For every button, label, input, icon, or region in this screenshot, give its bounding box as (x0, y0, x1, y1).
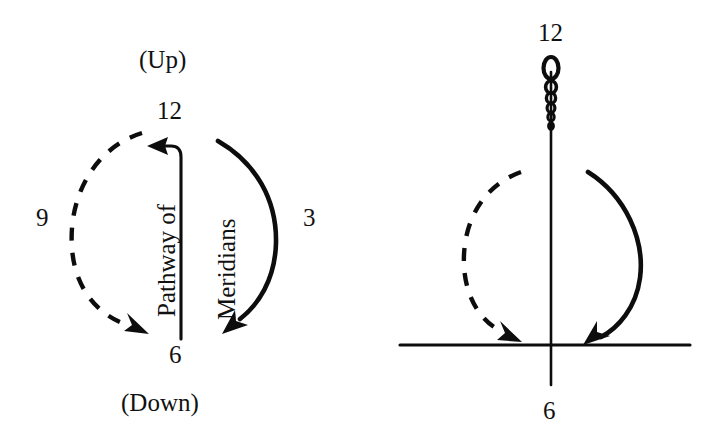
right-dashed-arrowhead-icon (497, 321, 522, 342)
right-dashed-arc (464, 172, 521, 331)
left-solid-arc (218, 141, 276, 319)
left-hook-arrowhead-icon (147, 137, 168, 155)
left-center-vertical-line (162, 146, 181, 339)
right-hour-12-label: 12 (538, 20, 563, 45)
left-dashed-arrowhead-icon (124, 313, 149, 334)
left-center-axis-group (147, 137, 181, 339)
left-solid-arc-group (218, 141, 276, 334)
figure-strokes (0, 0, 719, 447)
left-dashed-arc (72, 133, 142, 325)
right-dashed-arc-group (464, 172, 522, 342)
right-solid-arc-group (583, 172, 641, 345)
right-hour-6-label: 6 (543, 398, 556, 423)
right-solid-arc (588, 172, 641, 337)
left-dashed-arc-group (72, 133, 149, 334)
figure-canvas: (Up) 12 9 3 6 (Down) Pathway of Meridian… (0, 0, 719, 447)
